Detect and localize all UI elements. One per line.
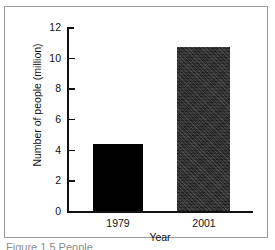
x-axis-line — [67, 211, 253, 213]
bar-2001 — [177, 47, 230, 211]
y-tick-label-12: 12 — [39, 22, 61, 32]
y-axis-tick-8 — [69, 88, 75, 89]
y-axis-tick-labels: 12 10 8 6 4 2 0 — [39, 27, 61, 211]
x-tick-label-1979: 1979 — [88, 217, 148, 229]
y-tick-label-2: 2 — [39, 175, 61, 185]
y-tick-label-4: 4 — [39, 145, 61, 155]
y-axis-tick-10 — [69, 58, 75, 59]
y-tick-label-6: 6 — [39, 114, 61, 124]
figure-caption: Figure 1.5 People — [6, 241, 272, 250]
y-axis-tick-6 — [69, 119, 75, 120]
bar-1979 — [93, 144, 143, 212]
x-axis-tick-labels: 1979 2001 — [67, 217, 253, 231]
figure-root: Number of people (million) 12 10 8 6 4 2… — [0, 0, 275, 250]
y-axis-top-cap — [67, 27, 74, 29]
x-tick-label-2001: 2001 — [174, 217, 234, 229]
y-tick-label-8: 8 — [39, 83, 61, 93]
y-tick-label-0: 0 — [39, 206, 61, 216]
plot-area — [67, 27, 253, 211]
y-axis-tick-2 — [69, 180, 75, 181]
y-tick-label-10: 10 — [39, 53, 61, 63]
y-axis-tick-4 — [69, 150, 75, 151]
figure-frame: Number of people (million) 12 10 8 6 4 2… — [4, 6, 268, 238]
